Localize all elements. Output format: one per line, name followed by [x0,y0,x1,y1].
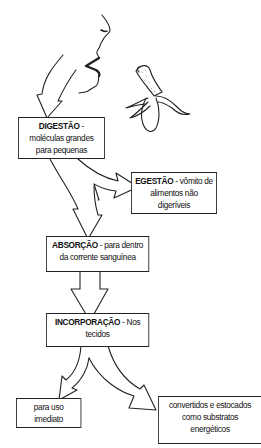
node-absorcao-term: ABSORÇÃO [52,239,98,250]
node-incorporacao-term: INCORPORAÇÃO [55,316,120,327]
diagram-artwork [0,0,261,448]
node-incorporacao: INCORPORAÇÃO - Nos tecidos [46,313,149,347]
banana-icon [126,66,190,132]
node-digestao: DIGESTÃO - moléculas grandes para pequen… [18,117,105,159]
node-egestao: EGESTÃO - vômito de alimentos não digerí… [131,172,217,214]
arrow-incorporacao-to-convertidos [89,346,156,410]
arrow-mouth-to-digestao [37,55,76,118]
node-convertidos-desc: convertidos e estocados como substratos … [169,399,251,434]
arrow-digestao-to-egestao [78,159,138,200]
node-uso-imediato: para uso imediato [16,398,81,428]
node-absorcao: ABSORÇÃO - para dentro da corrente sangu… [46,236,149,272]
node-digestao-term: DIGESTÃO [39,120,80,131]
node-uso-desc: para uso imediato [34,401,64,424]
node-egestao-term: EGESTÃO [135,175,173,186]
node-convertidos: convertidos e estocados como substratos … [158,396,261,444]
face-profile-icon [79,15,110,93]
arrow-incorporacao-to-uso [59,346,89,400]
